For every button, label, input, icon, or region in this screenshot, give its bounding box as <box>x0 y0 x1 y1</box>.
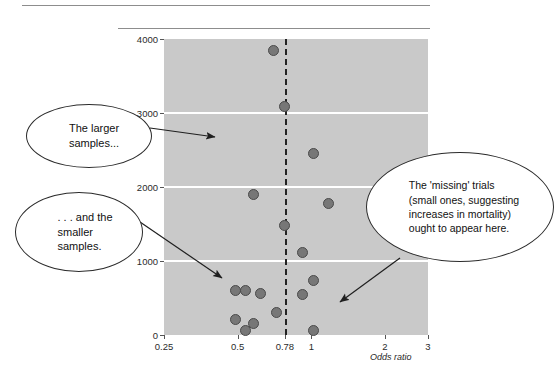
arrow-smaller <box>140 222 222 278</box>
callout-larger-samples: The larger samples... <box>26 104 152 168</box>
figure-canvas: No of patients 01000200030004000 0.250.5… <box>0 0 555 371</box>
arrow-missing <box>340 258 400 302</box>
callout-smaller-samples-text: . . . and the smaller samples. <box>45 210 112 254</box>
arrow-larger <box>150 128 215 137</box>
callout-smaller-samples: . . . and the smaller samples. <box>15 192 143 272</box>
callout-missing-trials-text: The 'missing' trials (small ones, sugges… <box>401 178 519 236</box>
callout-missing-trials: The 'missing' trials (small ones, sugges… <box>366 152 554 262</box>
callout-larger-samples-text: The larger samples... <box>59 121 119 150</box>
